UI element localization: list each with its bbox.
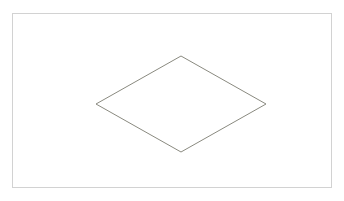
drawing-frame bbox=[12, 13, 332, 188]
drawing-canvas[interactable] bbox=[0, 0, 344, 201]
